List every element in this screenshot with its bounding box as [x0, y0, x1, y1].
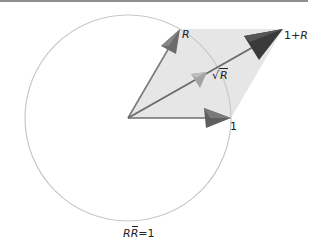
diagram-canvas: [0, 0, 321, 248]
sqrt-symbol: √: [212, 69, 219, 82]
label-r: R: [182, 29, 190, 40]
label-circle-rbar: R: [131, 228, 139, 239]
label-circle-equation: RR=1: [123, 228, 155, 239]
label-circle-eq: =1: [138, 227, 154, 240]
sqrt-radicand: R: [219, 68, 228, 82]
label-one-plus-r: 1+R: [284, 30, 308, 41]
label-sqrt-r: √R: [212, 70, 228, 81]
label-one-plus-r-var: R: [300, 29, 308, 42]
label-one-plus-r-prefix: 1+: [284, 29, 300, 42]
label-circle-r: R: [123, 227, 131, 240]
label-one: 1: [230, 121, 237, 132]
